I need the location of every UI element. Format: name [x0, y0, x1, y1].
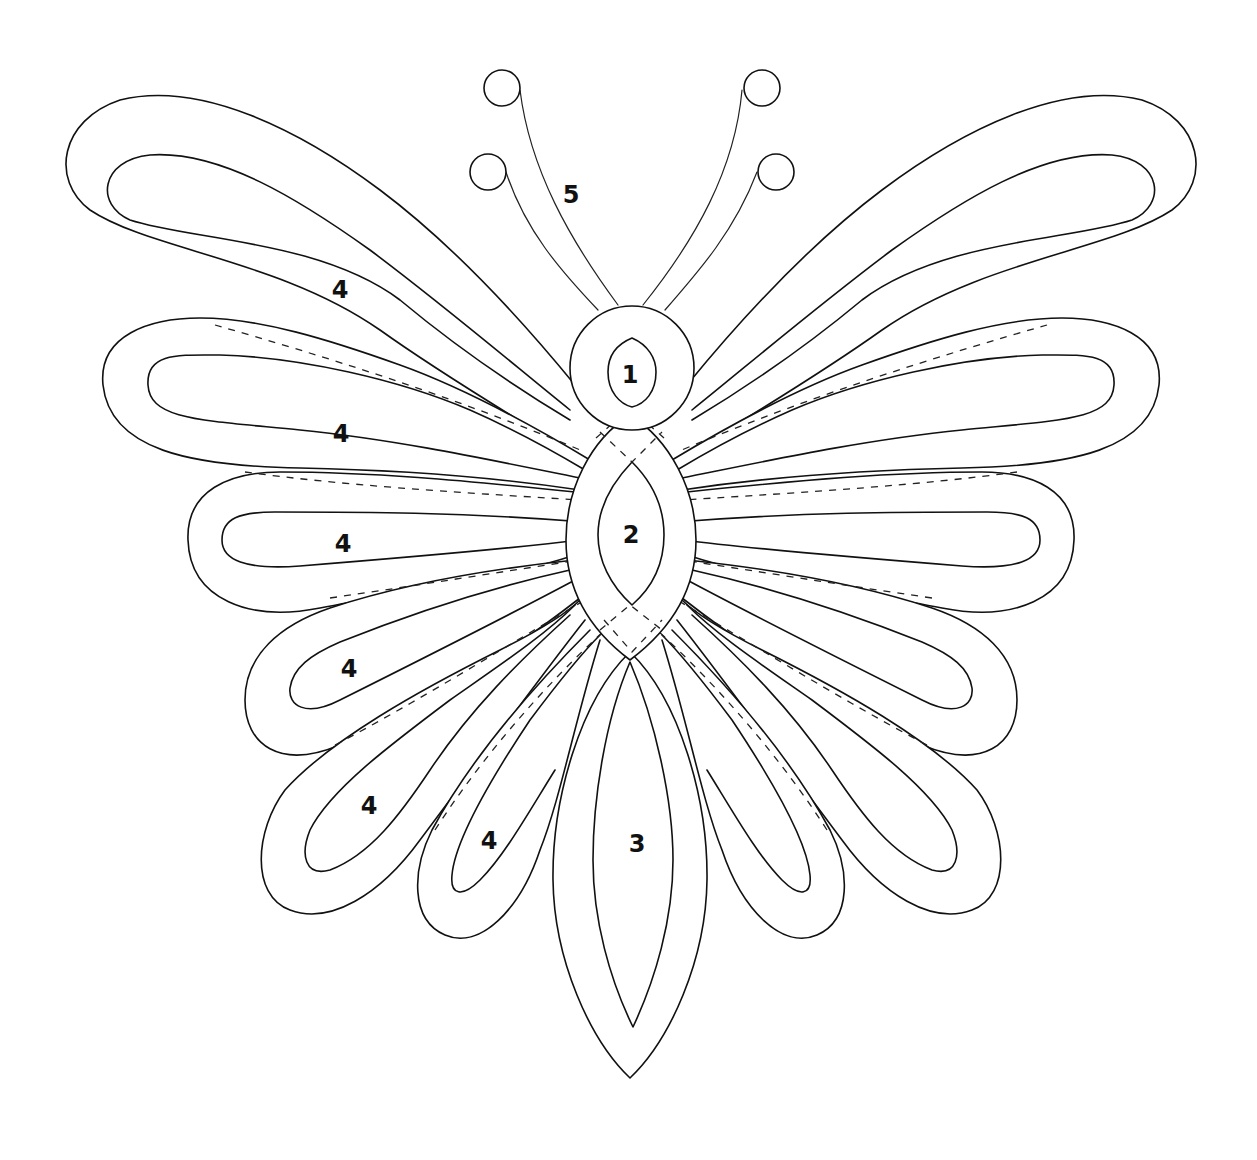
label-wing-middle: 4 [335, 530, 352, 558]
label-wing-inner: 4 [481, 827, 498, 855]
label-abdomen: 3 [629, 830, 646, 858]
left-wing [66, 96, 605, 939]
antenna-knob-right-bottom [758, 154, 794, 190]
label-wing-upper: 4 [332, 276, 349, 304]
label-head: 1 [622, 361, 639, 389]
antenna-right-inner [665, 172, 757, 310]
antenna-left-inner [506, 172, 598, 310]
label-wing-lower: 4 [361, 792, 378, 820]
antenna-knob-left-top [484, 70, 520, 106]
label-thorax: 2 [623, 521, 640, 549]
antenna-knob-left-bottom [470, 154, 506, 190]
right-wing [657, 96, 1196, 939]
antenna-right-outer [643, 90, 742, 305]
antennae [470, 70, 794, 310]
label-wing-second: 4 [333, 420, 350, 448]
butterfly-diagram: 5 1 2 3 4 4 4 4 4 4 [0, 0, 1257, 1160]
antenna-knob-right-top [744, 70, 780, 106]
label-wing-fourth: 4 [341, 655, 358, 683]
label-antennae: 5 [563, 181, 580, 209]
